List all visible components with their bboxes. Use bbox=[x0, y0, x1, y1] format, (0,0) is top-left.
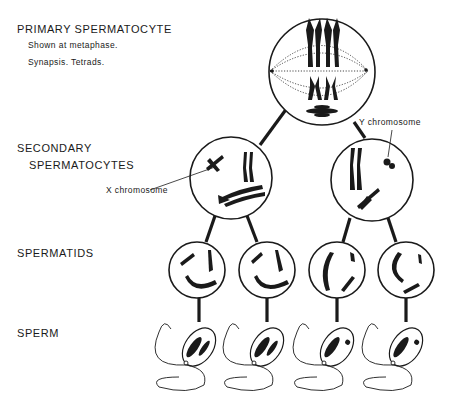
sperm-3 bbox=[293, 322, 360, 391]
spermatid-2 bbox=[239, 242, 295, 298]
sperm-2 bbox=[223, 322, 290, 391]
spermatid-3 bbox=[309, 242, 365, 298]
spermatids bbox=[169, 242, 434, 298]
primary-spermatocyte-cell bbox=[269, 18, 375, 125]
secondary-spermatocyte-left-cell bbox=[150, 137, 272, 219]
sperm-4 bbox=[362, 322, 429, 391]
sperm-cells bbox=[155, 322, 429, 391]
spermatogenesis-diagram bbox=[0, 0, 451, 399]
spermatid-1 bbox=[169, 242, 225, 298]
sperm-1 bbox=[155, 322, 222, 391]
spermatid-4 bbox=[378, 242, 434, 298]
secondary-spermatocyte-right-cell bbox=[331, 130, 413, 221]
